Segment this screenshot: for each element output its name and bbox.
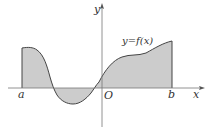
y-axis-label: y [93,3,101,16]
x-axis-label: x [193,88,200,101]
origin-label: O [104,89,113,102]
shaded-area [22,41,172,104]
function-label: y=f(x) [121,35,153,46]
left-bound-label: a [18,88,25,101]
function-area-diagram: y x O a b y=f(x) [0,0,211,130]
right-bound-label: b [168,88,175,101]
